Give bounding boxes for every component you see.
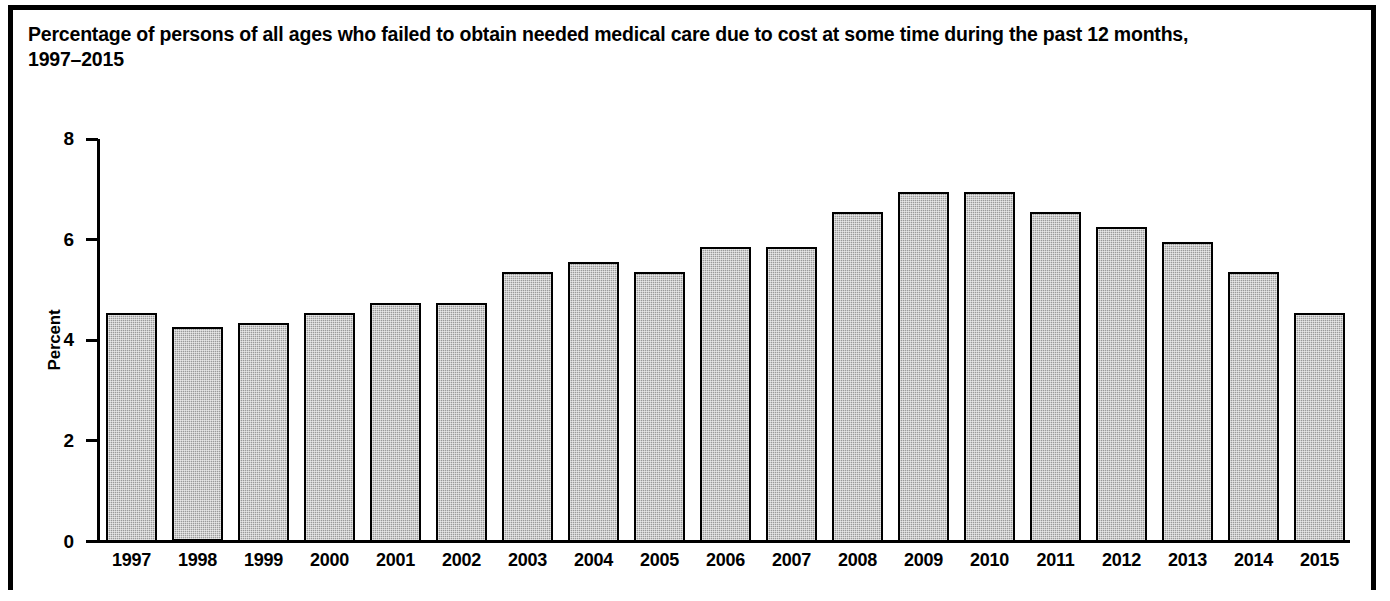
bar [1030, 212, 1081, 542]
bars-layer [0, 0, 1390, 601]
x-axis-tick-label: 2008 [824, 551, 891, 569]
bar [238, 323, 289, 542]
x-axis-tick-label: 2009 [890, 551, 957, 569]
bar [502, 272, 553, 541]
x-axis-tick-label: 1999 [230, 551, 297, 569]
figure-container: Percentage of persons of all ages who fa… [0, 0, 1390, 601]
x-axis-tick-label: 1998 [164, 551, 231, 569]
bar [898, 192, 949, 542]
x-axis-tick-label: 2004 [560, 551, 627, 569]
x-axis-tick-label: 2010 [956, 551, 1023, 569]
bar [436, 303, 487, 542]
plot-area: Percent 02468 19971998199920002001200220… [0, 0, 1390, 601]
x-axis-tick-label: 2006 [692, 551, 759, 569]
bar [1228, 272, 1279, 541]
x-axis-tick-label: 2002 [428, 551, 495, 569]
x-axis-tick-label: 1997 [98, 551, 165, 569]
x-axis-tick-label: 2014 [1220, 551, 1287, 569]
bar [106, 313, 157, 542]
x-axis-tick-label: 2011 [1022, 551, 1089, 569]
x-axis-tick-label: 2013 [1154, 551, 1221, 569]
bar [1096, 227, 1147, 541]
x-axis-tick-label: 2012 [1088, 551, 1155, 569]
x-axis-tick-label: 2003 [494, 551, 561, 569]
bar [766, 247, 817, 541]
x-axis-tick-label: 2000 [296, 551, 363, 569]
bar [568, 262, 619, 541]
bar [832, 212, 883, 542]
x-axis-tick-label: 2015 [1286, 551, 1353, 569]
bar [1162, 242, 1213, 541]
x-axis-tick-label: 2007 [758, 551, 825, 569]
bar [1294, 313, 1345, 542]
bar [370, 303, 421, 542]
x-axis-tick-label: 2001 [362, 551, 429, 569]
bar [964, 192, 1015, 542]
bar [700, 247, 751, 541]
bar [304, 313, 355, 542]
bar [172, 327, 223, 542]
x-axis-tick-label: 2005 [626, 551, 693, 569]
bar [634, 272, 685, 541]
